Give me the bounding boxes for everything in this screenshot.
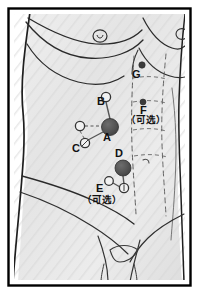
port-label-E: E (96, 183, 103, 194)
port-placement-figure: A B C D E F G （可选） （可选） (0, 0, 199, 294)
port-label-D: D (115, 148, 123, 159)
port-label-G: G (132, 69, 141, 80)
port-label-A: A (103, 132, 111, 143)
torso-group (12, 12, 188, 282)
port-marker-C[interactable] (75, 121, 84, 130)
port-marker-D[interactable] (115, 160, 131, 176)
port-label-B: B (97, 96, 105, 107)
port-optional-note-E: （可选） (82, 195, 122, 205)
port-label-C: C (72, 143, 80, 154)
anatomical-illustration (0, 0, 199, 294)
skin-texture (12, 12, 186, 282)
port-optional-note-F: （可选） (126, 115, 166, 125)
port-marker-E[interactable] (105, 177, 114, 186)
